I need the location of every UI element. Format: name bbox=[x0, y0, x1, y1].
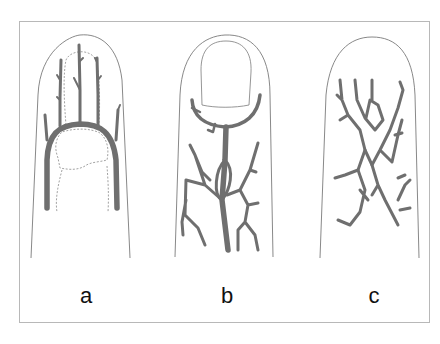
panel-label-c: c bbox=[359, 283, 389, 309]
finger-outline-c bbox=[320, 37, 419, 258]
panel-b-finger bbox=[175, 35, 273, 257]
vessel-arch-a bbox=[47, 124, 117, 208]
panel-a-finger bbox=[31, 35, 130, 258]
panel-label-a: a bbox=[71, 283, 101, 309]
panel-label-b: b bbox=[212, 283, 242, 309]
phalanx-outline-a bbox=[64, 52, 99, 125]
panel-c-finger bbox=[320, 37, 419, 258]
nail-plate-b bbox=[201, 41, 251, 107]
